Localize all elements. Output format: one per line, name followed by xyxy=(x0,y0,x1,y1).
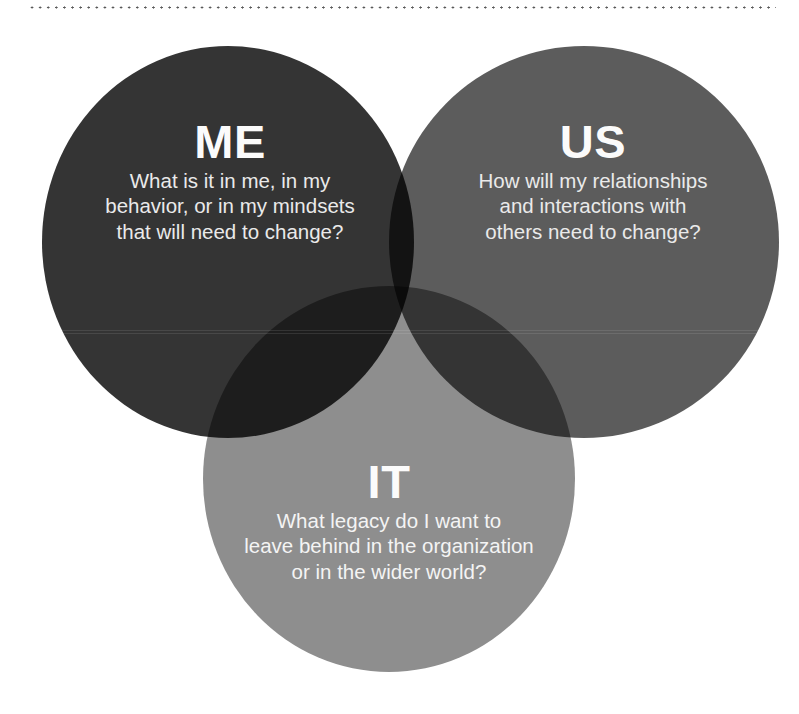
venn-title-us: US xyxy=(420,118,766,165)
venn-body-it-line-1: What legacy do I want to xyxy=(212,508,566,533)
venn-label-me: ME What is it in me, in my behavior, or … xyxy=(60,118,400,244)
venn-label-us: US How will my relationships and interac… xyxy=(420,118,766,244)
venn-body-it-line-3: or in the wider world? xyxy=(212,559,566,584)
venn-title-me: ME xyxy=(60,118,400,165)
venn-diagram-page: ME What is it in me, in my behavior, or … xyxy=(0,0,799,714)
venn-body-us-line-2: and interactions with xyxy=(420,193,766,218)
venn-body-me-line-3: that will need to change? xyxy=(60,219,400,244)
venn-body-us-line-3: others need to change? xyxy=(420,219,766,244)
venn-body-it-line-2: leave behind in the organization xyxy=(212,533,566,558)
venn-label-it: IT What legacy do I want to leave behind… xyxy=(212,458,566,584)
venn-diagram xyxy=(0,0,799,714)
venn-body-me-line-2: behavior, or in my mindsets xyxy=(60,193,400,218)
venn-body-us-line-1: How will my relationships xyxy=(420,168,766,193)
venn-body-me-line-1: What is it in me, in my xyxy=(60,168,400,193)
venn-title-it: IT xyxy=(212,458,566,505)
